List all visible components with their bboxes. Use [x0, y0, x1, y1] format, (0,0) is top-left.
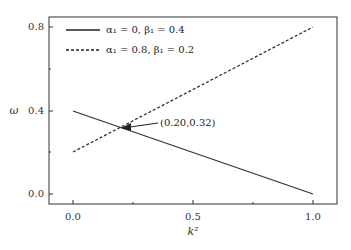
y-axis-label: ω	[10, 104, 19, 117]
chart: 0.8 0.4 0.0 0.0 0.5 1.0 k² ω α₁ = 0, β₁ …	[0, 0, 351, 250]
legend-label-1: α₁ = 0, β₁ = 0.4	[106, 24, 185, 35]
ytick-label: 0.8	[28, 21, 44, 32]
annotation-label: (0.20,0.32)	[160, 117, 216, 128]
xtick-label: 0.0	[65, 211, 81, 222]
ytick-label: 0.4	[28, 105, 44, 116]
annotation-arrow	[130, 123, 158, 127]
x-ticks	[73, 200, 313, 204]
ytick-label: 0.0	[28, 188, 44, 199]
xtick-label: 0.5	[185, 211, 201, 222]
y-ticks	[49, 27, 53, 194]
legend-label-2: α₁ = 0.8, β₁ = 0.2	[106, 44, 194, 55]
xtick-label: 1.0	[305, 211, 321, 222]
x-axis-label: k²	[187, 225, 198, 238]
